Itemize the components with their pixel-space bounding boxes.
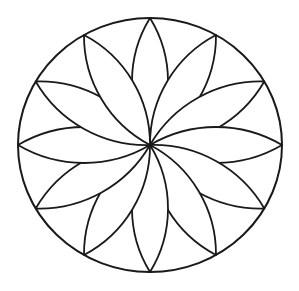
rosette-diagram [0,0,299,291]
petal-group [18,18,282,272]
